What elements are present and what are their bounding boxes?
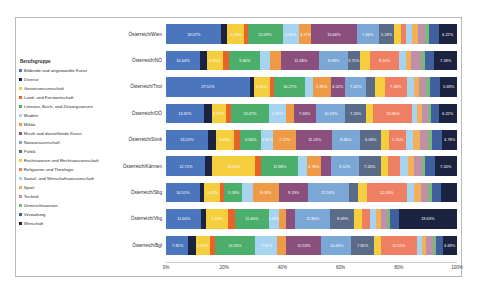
bar-segment[interactable] (381, 156, 389, 176)
bar-segment[interactable]: 9.19% (279, 183, 309, 203)
bar-segment[interactable] (430, 77, 440, 97)
bar-segment[interactable]: 7.20% (435, 156, 457, 176)
legend-item[interactable]: Musik und darstellende Kunst (19, 129, 117, 138)
legend-item[interactable]: Medien (19, 111, 117, 120)
legend-item[interactable]: Sport (19, 183, 117, 192)
bar-segment[interactable]: 3.19% (269, 209, 278, 229)
bar-segment[interactable] (432, 130, 442, 150)
bar-segment[interactable] (390, 209, 399, 229)
bar-segment[interactable] (414, 156, 422, 176)
bar-segment[interactable]: 11.66% (235, 209, 270, 229)
legend-item[interactable]: Land- und Forstwirtschaft (19, 93, 117, 102)
bar-segment[interactable] (208, 130, 215, 150)
bar-segment[interactable]: 6.66% (240, 130, 261, 150)
bar-segment[interactable]: 7.18% (434, 51, 457, 71)
bar-segment[interactable] (381, 130, 389, 150)
bar-segment[interactable] (441, 183, 457, 203)
bar-segment[interactable]: 6.22% (439, 104, 457, 124)
bar-segment[interactable]: 10.19% (316, 104, 345, 124)
bar-segment[interactable] (407, 183, 414, 203)
bar-segment[interactable]: 13.35% (166, 104, 204, 124)
bar-segment[interactable]: 11.98% (261, 156, 298, 176)
bar-segment[interactable]: 5.92% (313, 77, 331, 97)
bar-segment[interactable]: 13.47% (231, 104, 270, 124)
bar-segment[interactable] (419, 77, 426, 97)
bar-segment[interactable]: 4.78% (307, 156, 322, 176)
bar-segment[interactable]: 5.63% (216, 130, 234, 150)
bar-segment[interactable]: 5.05% (196, 236, 210, 256)
bar-segment[interactable]: 11.24% (296, 130, 332, 150)
legend-item[interactable]: Rechtswesen und Rechtswissenschaft (19, 156, 117, 165)
bar-segment[interactable]: 12.33% (367, 183, 407, 203)
bar-segment[interactable]: 4.78% (442, 130, 457, 150)
bar-segment[interactable] (260, 51, 270, 71)
bar-segment[interactable]: 5.15% (389, 130, 405, 150)
bar-segment[interactable]: 3.71% (348, 51, 360, 71)
legend-item[interactable]: Militär (19, 120, 117, 129)
bar-segment[interactable]: 7.23% (206, 209, 227, 229)
legend-item[interactable]: Wirtschaft (19, 219, 117, 228)
bar-segment[interactable] (349, 183, 358, 203)
bar-segment[interactable]: 5.53% (227, 24, 243, 44)
bar-segment[interactable] (321, 156, 330, 176)
bar-segment[interactable]: 12.53% (286, 236, 322, 256)
bar-segment[interactable]: 5.59% (224, 183, 242, 203)
bar-segment[interactable]: 8.66% (332, 130, 360, 150)
bar-segment[interactable]: 7.63% (294, 104, 316, 124)
legend-item[interactable]: Religionen und Theologie (19, 165, 117, 174)
bar-segment[interactable] (406, 130, 413, 150)
bar-segment[interactable]: 15.66% (311, 24, 356, 44)
bar-segment[interactable] (205, 156, 212, 176)
bar-segment[interactable] (425, 156, 434, 176)
bar-segment[interactable] (388, 156, 400, 176)
bar-segment[interactable] (411, 51, 420, 71)
bar-segment[interactable] (375, 77, 384, 97)
bar-segment[interactable]: 14.26% (215, 236, 256, 256)
bar-segment[interactable] (431, 104, 439, 124)
bar-segment[interactable] (414, 183, 421, 203)
bar-segment[interactable] (286, 104, 294, 124)
bar-segment[interactable]: 13.36% (373, 104, 411, 124)
bar-segment[interactable]: 7.02% (345, 77, 366, 97)
bar-segment[interactable] (432, 183, 441, 203)
bar-segment[interactable] (420, 130, 428, 150)
bar-segment[interactable]: 5.05% (207, 51, 223, 71)
bar-segment[interactable]: 9.16% (370, 51, 400, 71)
bar-segment[interactable]: 5.69% (440, 77, 457, 97)
legend-item[interactable]: Bildende und angewandte Kunst (19, 66, 117, 75)
bar-segment[interactable] (400, 156, 408, 176)
bar-segment[interactable] (360, 51, 370, 71)
bar-segment[interactable] (374, 236, 381, 256)
bar-segment[interactable] (204, 104, 211, 124)
bar-segment[interactable]: 7.36% (385, 77, 407, 97)
bar-segment[interactable]: 10.51% (166, 183, 200, 203)
bar-segment[interactable]: 7.81% (351, 236, 373, 256)
bar-segment[interactable] (407, 77, 414, 97)
bar-segment[interactable] (366, 77, 375, 97)
bar-segment[interactable] (270, 51, 281, 71)
bar-segment[interactable]: 7.17% (273, 130, 296, 150)
bar-segment[interactable]: 12.59% (308, 183, 348, 203)
bar-segment[interactable]: 11.86% (295, 209, 330, 229)
bar-segment[interactable]: 8.09% (253, 183, 279, 203)
bar-segment[interactable]: 6.22% (439, 24, 457, 44)
bar-segment[interactable] (286, 209, 295, 229)
bar-segment[interactable] (436, 236, 443, 256)
bar-segment[interactable]: 3.81% (261, 130, 273, 150)
bar-segment[interactable]: 11.58% (281, 51, 318, 71)
bar-segment[interactable]: 5.19% (379, 24, 394, 44)
bar-segment[interactable]: 12.55% (381, 236, 417, 256)
legend-item[interactable]: Literatur, Buch- und Zeitungswesen (19, 102, 117, 111)
bar-segment[interactable]: 9.12% (331, 156, 359, 176)
bar-segment[interactable]: 5.02% (204, 183, 220, 203)
bar-segment[interactable]: 5.17% (212, 104, 227, 124)
bar-segment[interactable] (277, 236, 285, 256)
bar-segment[interactable]: 7.61% (255, 236, 277, 256)
bar-segment[interactable] (298, 156, 307, 176)
bar-segment[interactable] (354, 209, 362, 229)
bar-segment[interactable]: 12.09% (248, 24, 283, 44)
bar-segment[interactable] (242, 183, 252, 203)
bar-segment[interactable]: 6.63% (360, 130, 381, 150)
bar-segment[interactable] (366, 104, 374, 124)
bar-segment[interactable]: 5.65% (283, 24, 299, 44)
